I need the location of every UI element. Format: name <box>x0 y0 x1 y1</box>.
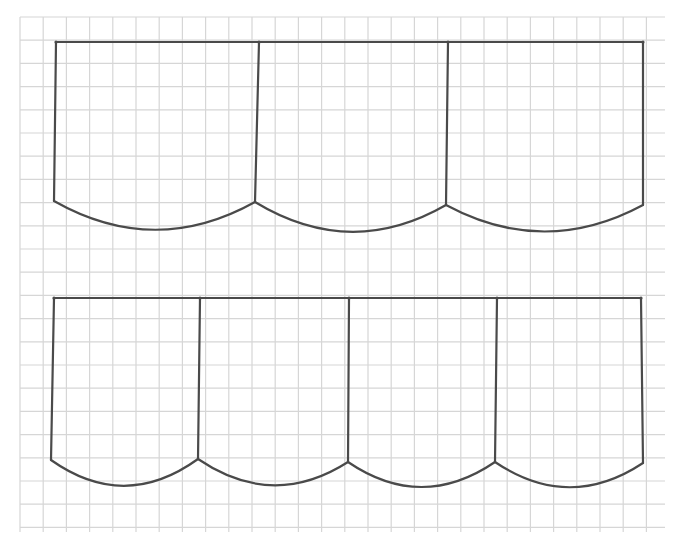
scallop-hem <box>348 462 495 487</box>
corner-dot <box>52 296 55 299</box>
scallop-hem <box>51 459 198 486</box>
corner-dot <box>639 296 642 299</box>
valance-drawings <box>51 40 645 487</box>
corner-dot <box>495 296 498 299</box>
corner-dot <box>641 40 644 43</box>
graph-paper-sketch <box>0 0 682 544</box>
panel-divider <box>641 298 643 463</box>
panel-divider <box>54 42 56 201</box>
panel-divider <box>446 42 448 205</box>
panel-divider <box>51 298 54 460</box>
panel-divider <box>495 298 497 462</box>
scallop-hem <box>446 205 643 232</box>
scallop-hem <box>255 202 446 232</box>
corner-dot <box>198 296 201 299</box>
corner-dot <box>347 296 350 299</box>
panel-divider <box>255 42 259 202</box>
graph-paper-grid <box>20 17 665 532</box>
scallop-hem <box>495 462 643 487</box>
corner-dot <box>446 40 449 43</box>
panel-divider <box>348 298 349 462</box>
corner-dot <box>257 40 260 43</box>
corner-dot <box>54 40 57 43</box>
four-panel-valance <box>51 296 643 487</box>
